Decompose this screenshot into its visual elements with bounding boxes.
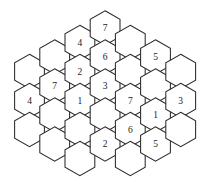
hexagon-cell-layer: 474217632765153 <box>15 11 196 176</box>
hexagon-puzzle-board: 474217632765153 <box>0 0 215 193</box>
hexagon-grid-svg: 474217632765153 <box>0 0 215 193</box>
